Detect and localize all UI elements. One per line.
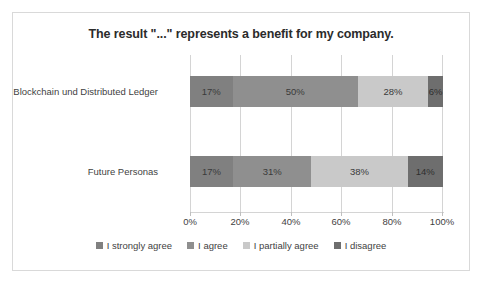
legend-label: I partially agree [254,240,319,251]
category-label-blockchain: Blockchain und Distributed Ledger [13,86,158,97]
category-label-future-personas: Future Personas [88,166,158,177]
chart-legend: I strongly agree I agree I partially agr… [13,240,469,251]
bar-value-label: 50% [286,86,305,97]
bar-value-label: 17% [202,166,221,177]
bar-segment-agree[interactable]: 31% [233,156,311,187]
bar-segment-agree[interactable]: 50% [233,76,358,107]
bar-value-label: 38% [350,166,369,177]
x-axis-label-0: 0% [183,216,197,227]
bar-value-label: 31% [263,166,282,177]
bar-segment-strongly-agree[interactable]: 17% [190,156,233,187]
bar-value-label: 14% [416,166,435,177]
x-axis-label-100: 100% [430,216,454,227]
legend-item-agree[interactable]: I agree [187,240,228,251]
x-axis-label-80: 80% [382,216,401,227]
legend-item-partially-agree[interactable]: I partially agree [243,240,319,251]
bar-segment-partially-agree[interactable]: 28% [358,76,428,107]
legend-item-strongly-agree[interactable]: I strongly agree [96,240,172,251]
x-axis-label-60: 60% [331,216,350,227]
legend-label: I disagree [345,240,387,251]
bar-segment-partially-agree[interactable]: 38% [311,156,407,187]
x-axis-line [190,212,444,213]
chart-container: The result "..." represents a benefit fo… [12,12,470,271]
legend-swatch-icon [243,242,250,249]
legend-swatch-icon [187,242,194,249]
bar-segment-strongly-agree[interactable]: 17% [190,76,233,107]
bar-value-label: 6% [429,86,443,97]
chart-title: The result "..." represents a benefit fo… [13,27,469,41]
x-axis-label-40: 40% [281,216,300,227]
legend-item-disagree[interactable]: I disagree [334,240,387,251]
bar-value-label: 17% [202,86,221,97]
bar-row-blockchain: 17% 50% 28% 6% [190,76,443,107]
bar-segment-disagree[interactable]: 14% [408,156,443,187]
legend-swatch-icon [96,242,103,249]
plot-area: 17% 50% 28% 6% 17% 31% 38% 14% [190,55,443,212]
bar-row-future-personas: 17% 31% 38% 14% [190,156,443,187]
x-axis-label-20: 20% [230,216,249,227]
legend-label: I strongly agree [107,240,172,251]
bar-segment-disagree[interactable]: 6% [428,76,443,107]
legend-swatch-icon [334,242,341,249]
bar-value-label: 28% [383,86,402,97]
legend-label: I agree [198,240,228,251]
